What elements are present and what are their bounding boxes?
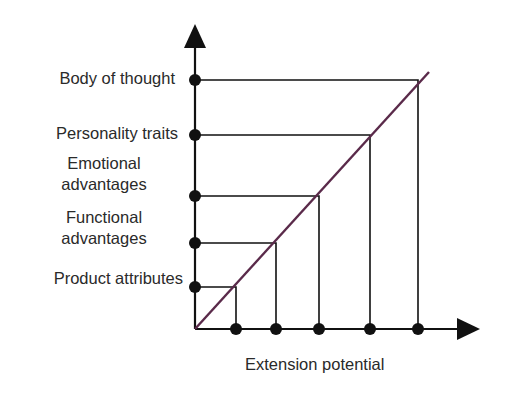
dot-body-of-thought (189, 74, 201, 86)
label-personality-traits: Personality traits (56, 123, 178, 144)
label-functional-advantages: Functional advantages (48, 207, 160, 249)
label-emotional-line2: advantages (48, 174, 160, 195)
label-body-of-thought: Body of thought (59, 68, 175, 89)
dot-functional-advantages (189, 237, 201, 249)
x-dot-4 (364, 323, 376, 335)
label-functional-line1: Functional (48, 207, 160, 228)
x-dot-2 (270, 323, 282, 335)
x-dot-5 (412, 323, 424, 335)
label-emotional-line1: Emotional (48, 153, 160, 174)
label-product-attributes: Product attributes (54, 268, 183, 289)
label-functional-line2: advantages (48, 228, 160, 249)
y-axis-arrow-icon (184, 24, 206, 48)
dot-personality-traits (189, 129, 201, 141)
x-dot-1 (230, 323, 242, 335)
x-axis-arrow-icon (457, 318, 480, 340)
dot-emotional-advantages (189, 190, 201, 202)
dot-product-attributes (189, 281, 201, 293)
extension-potential-diagram (0, 0, 506, 396)
x-axis-label: Extension potential (245, 354, 384, 375)
x-dot-3 (313, 323, 325, 335)
label-emotional-advantages: Emotional advantages (48, 153, 160, 195)
diagonal-line (195, 72, 429, 329)
